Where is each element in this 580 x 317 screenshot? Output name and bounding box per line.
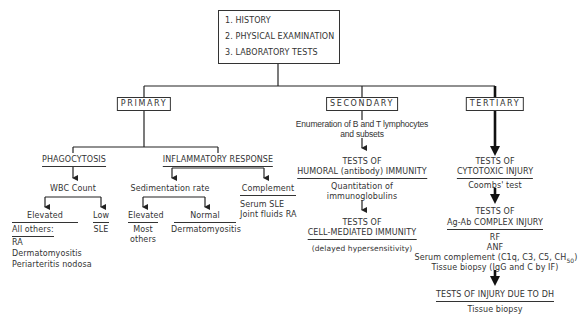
sed-elevated-item: Most: [133, 225, 153, 235]
enumeration-text: Enumeration of B and T lymphocytes: [296, 119, 428, 129]
sed-elevated-item: others: [130, 235, 156, 245]
phagocytosis-heading: PHAGOCYTOSIS: [42, 155, 106, 167]
wbc-elevated-item: Periarteritis nodosa: [12, 260, 92, 270]
humoral-item: immunoglobulins: [327, 192, 397, 202]
step-laboratory-tests: 3. LABORATORY TESTS: [225, 48, 318, 58]
humoral-tests-of: TESTS OF: [342, 157, 381, 167]
cell-mediated-immunity-heading: CELL-MEDIATED IMMUNITY: [308, 228, 417, 240]
wbc-elevated-item: RA: [12, 238, 23, 248]
dh-item-tissue-biopsy: Tissue biopsy: [467, 305, 522, 315]
cytotoxic-tests-of: TESTS OF: [475, 157, 514, 167]
step-physical-examination: 2. PHYSICAL EXAMINATION: [225, 32, 334, 42]
evaluation-steps-box: 1. HISTORY 2. PHYSICAL EXAMINATION 3. LA…: [218, 10, 340, 64]
complement-label: Complement: [240, 184, 296, 196]
sed-normal-item: Dermatomyositis: [171, 225, 241, 235]
tertiary-arrow-2: [490, 194, 500, 204]
humoral-item: Quantitation of: [331, 182, 393, 192]
cell-mediated-tests-of: TESTS OF: [342, 218, 381, 228]
humoral-immunity-heading: HUMORAL (antibody) IMMUNITY: [297, 167, 427, 179]
wbc-low-item: SLE: [94, 225, 109, 235]
complement-item: Serum SLE: [240, 200, 284, 210]
all-others-heading: All others:: [12, 225, 54, 237]
complex-tests-of: TESTS OF: [475, 207, 514, 217]
complement-item: Joint fluids RA: [240, 210, 297, 220]
wbc-low-label: Low: [93, 211, 109, 223]
sed-normal-label: Normal: [174, 211, 236, 223]
sedimentation-rate-label: Sedimentation rate: [130, 184, 209, 194]
stage-secondary: SECONDARY: [326, 97, 398, 111]
inflammatory-response-heading: INFLAMMATORY RESPONSE: [163, 155, 273, 167]
sed-elevated-label: Elevated: [128, 211, 158, 223]
enumeration-text: and subsets: [340, 129, 384, 139]
serum-complement-close: ): [574, 253, 577, 262]
ch50-subscript: 50: [566, 257, 574, 264]
step-history: 1. HISTORY: [225, 16, 271, 26]
complex-item-anf: ANF: [487, 243, 503, 253]
tertiary-arrow-1: [490, 146, 500, 156]
stage-primary: PRIMARY: [117, 97, 171, 111]
wbc-elevated-label: Elevated: [12, 211, 78, 223]
wbc-count-label: WBC Count: [50, 184, 96, 194]
stage-tertiary: TERTIARY: [466, 97, 524, 111]
cell-mediated-note: (delayed hypersensitivity): [312, 244, 413, 254]
complex-item-tissue-biopsy: Tissue biopsy (IgG and C by IF): [431, 263, 558, 273]
dh-injury-heading: TESTS OF INJURY DUE TO DH: [436, 290, 554, 302]
tertiary-arrow-3: [490, 276, 500, 286]
wbc-elevated-item: Dermatomyositis: [12, 249, 82, 259]
serum-complement-text: Serum complement (C1q, C3, C5, CH: [415, 253, 567, 262]
complex-item-rf: RF: [490, 233, 500, 243]
coombs-test: Coombs' test: [468, 181, 522, 191]
cytotoxic-injury-heading: CYTOTOXIC INJURY: [457, 167, 533, 179]
complex-injury-heading: Ag-Ab COMPLEX INJURY: [447, 218, 543, 230]
